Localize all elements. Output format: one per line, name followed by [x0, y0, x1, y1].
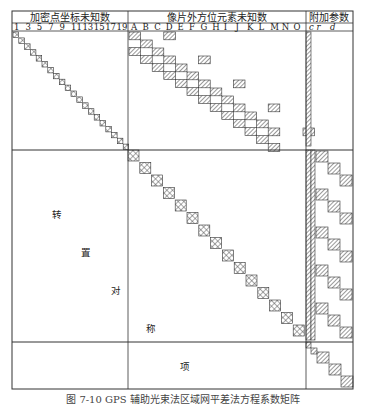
point-diagonal-block — [13, 32, 19, 38]
param-step-block — [340, 213, 352, 224]
image-coef-block — [152, 48, 164, 56]
image-coef-block — [222, 96, 234, 104]
col-label-image: N — [282, 22, 290, 32]
col-label-point: 7 — [48, 22, 53, 32]
image-coef-block — [175, 64, 187, 72]
col-label-image: I — [224, 22, 227, 32]
image-coef-block — [257, 136, 269, 144]
param-strip — [311, 150, 315, 340]
col-label-point: 9 — [60, 22, 65, 32]
param-step-block — [340, 289, 352, 300]
param-strip — [306, 150, 311, 340]
point-diagonal-block — [59, 79, 65, 85]
image-coef-block — [129, 48, 141, 56]
eo-diagonal-block — [281, 313, 292, 324]
image-coef-block — [233, 80, 245, 88]
eo-diagonal-block — [163, 188, 174, 199]
eo-diagonal-block — [128, 150, 139, 161]
col-label-param: d — [330, 22, 336, 32]
point-diagonal-block — [42, 62, 48, 68]
param-block-bottom — [341, 376, 353, 387]
point-diagonal-block — [117, 138, 123, 144]
point-diagonal-block — [106, 126, 112, 131]
image-coef-block — [164, 72, 176, 80]
col-label-image: F — [189, 22, 195, 32]
point-diagonal-block — [100, 121, 106, 127]
eo-diagonal-block — [258, 288, 269, 299]
col-label-point: 13 — [82, 22, 93, 32]
col-label-param: c r — [309, 22, 321, 32]
point-diagonal-block — [112, 132, 118, 138]
eo-diagonal-block — [175, 200, 186, 211]
param-step-block — [328, 239, 340, 250]
col-label-image: K — [247, 22, 254, 32]
image-coef-block — [199, 80, 211, 88]
label-cheng: 称 — [146, 323, 156, 334]
col-label-image: A — [130, 22, 138, 32]
point-diagonal-block — [36, 56, 42, 62]
image-coef-block — [129, 32, 141, 40]
col-label-point: 15 — [94, 22, 105, 32]
image-coef-block — [222, 112, 234, 120]
eo-diagonal-block — [234, 263, 245, 274]
point-diagonal-block — [54, 73, 60, 79]
image-coef-block — [164, 32, 176, 40]
point-diagonal-block — [48, 67, 54, 73]
col-label-image: J — [234, 22, 239, 32]
param-step-block — [316, 265, 328, 276]
param-step-block — [328, 201, 340, 212]
param-step-block — [316, 189, 328, 200]
eo-diagonal-block — [152, 175, 163, 186]
image-coef-block — [210, 104, 222, 112]
point-diagonal-block — [83, 103, 89, 109]
image-coef-block — [210, 88, 222, 96]
param-step-block — [328, 163, 340, 174]
param-step-block — [340, 175, 352, 186]
figure-caption: 图 7-10 GPS 辅助光束法区域网平差法方程系数矩阵 — [66, 393, 300, 404]
label-zhuan: 转 — [52, 209, 62, 220]
col-label-image: E — [177, 22, 183, 32]
eo-diagonal-block — [270, 300, 281, 311]
image-coef-block — [268, 128, 280, 136]
point-diagonal-block — [25, 44, 31, 50]
col-label-point: 3 — [25, 22, 30, 32]
label-zhi: 置 — [81, 247, 91, 258]
col-label-image: D — [166, 22, 173, 32]
image-coef-block — [175, 80, 187, 88]
col-label-image: B — [143, 22, 149, 32]
image-coef-block — [141, 40, 153, 48]
point-diagonal-block — [65, 85, 71, 91]
image-coef-block — [245, 128, 257, 136]
param-step-block — [340, 251, 352, 262]
col-label-image: O — [293, 22, 300, 32]
eo-diagonal-block — [246, 275, 257, 286]
eo-diagonal-block — [199, 225, 210, 236]
image-coef-block — [187, 72, 199, 80]
col-label-image: H — [212, 22, 219, 32]
param-step-block — [316, 151, 328, 162]
col-label-image: M — [270, 22, 279, 32]
col-label-point: 17 — [105, 22, 116, 32]
normal-equation-matrix-diagram: 加密点坐标未知数 像片外方位元素未知数 附加参数 135791113151719… — [0, 0, 367, 404]
image-coef-block — [257, 120, 269, 128]
col-label-image: C — [154, 22, 161, 32]
param-step-block — [316, 303, 328, 314]
param-strip — [306, 32, 311, 146]
image-coef-block — [268, 104, 280, 112]
point-diagonal-block — [94, 115, 100, 121]
image-coef-block — [199, 96, 211, 104]
point-diagonal-block — [30, 50, 36, 56]
point-diagonal-block — [71, 91, 77, 97]
image-coef-block — [187, 88, 199, 96]
image-coef-block — [164, 56, 176, 64]
eo-diagonal-block — [293, 325, 304, 336]
image-coef-block — [233, 120, 245, 128]
label-xiang: 项 — [180, 361, 190, 372]
param-block-bottom — [329, 364, 341, 375]
param-step-block — [328, 277, 340, 288]
col-label-point: 1 — [14, 22, 19, 32]
param-step-block — [328, 315, 340, 326]
eo-diagonal-block — [222, 250, 233, 261]
image-coef-block — [199, 56, 211, 64]
eo-diagonal-block — [140, 163, 151, 174]
